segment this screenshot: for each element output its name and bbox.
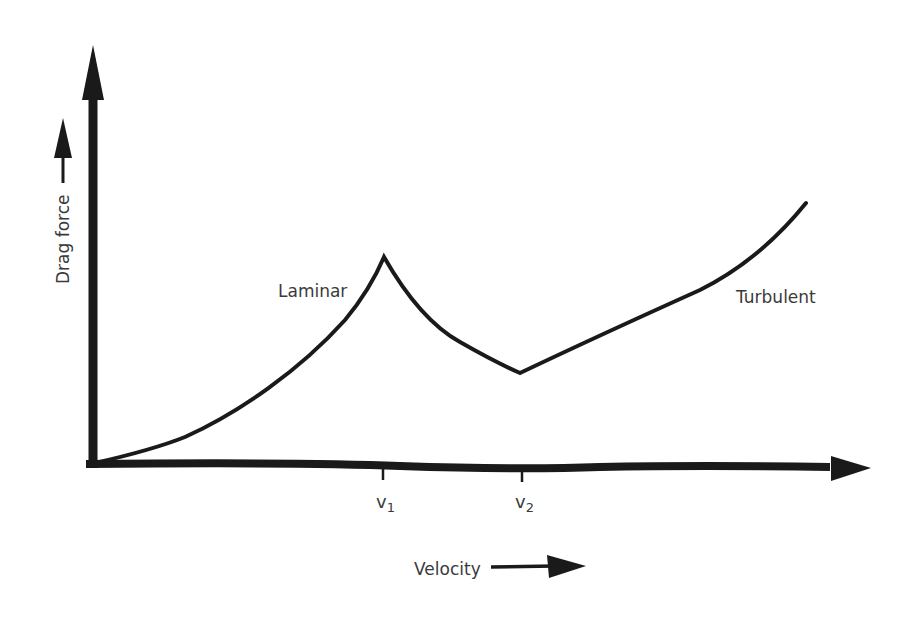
turbulent-label: Turbulent — [735, 287, 816, 307]
x-axis — [86, 456, 871, 481]
drag-force-diagram: Laminar Turbulent v1 v2 Drag force Veloc… — [0, 0, 920, 618]
x-axis-arrowhead-icon — [831, 456, 871, 481]
tick-label-v1: v1 — [376, 491, 395, 515]
y-axis-label: Drag force — [53, 195, 73, 285]
x-axis-label-group: Velocity — [414, 555, 586, 579]
y-axis — [82, 45, 104, 468]
y-axis-label-group: Drag force — [53, 118, 73, 284]
x-axis-label: Velocity — [414, 559, 481, 579]
laminar-label: Laminar — [278, 281, 347, 301]
y-label-arrow-icon — [54, 118, 72, 158]
tick-label-v2: v2 — [515, 491, 534, 515]
y-axis-arrowhead-icon — [82, 45, 104, 100]
drag-curve — [95, 203, 806, 463]
x-label-arrow-icon — [547, 555, 586, 578]
